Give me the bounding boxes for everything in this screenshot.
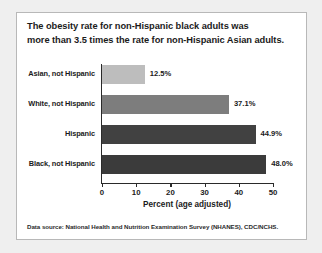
bar-category-label: Asian, not Hispanic — [17, 69, 95, 78]
bar-category-label: Hispanic — [17, 129, 95, 138]
x-axis-tick-label: 0 — [100, 188, 104, 197]
bar — [102, 95, 229, 114]
bar-value-label: 12.5% — [150, 69, 172, 78]
x-axis-tick-label: 40 — [234, 188, 243, 197]
chart-title-line-2: more than 3.5 times the rate for non-His… — [27, 34, 299, 48]
x-axis-tick-label: 20 — [166, 188, 175, 197]
x-axis-line — [101, 183, 273, 184]
x-axis-label: Percent (age adjusted) — [101, 200, 273, 209]
bar — [102, 155, 266, 174]
x-axis-tick — [273, 183, 274, 187]
x-axis-tick — [239, 183, 240, 187]
x-axis-tick-label: 30 — [200, 188, 209, 197]
bar-row: Hispanic44.9% — [17, 121, 308, 151]
chart-card: The obesity rate for non-Hispanic black … — [16, 12, 307, 240]
bar-value-label: 37.1% — [234, 99, 256, 108]
x-axis-tick — [170, 183, 171, 187]
bar-value-label: 48.0% — [271, 159, 293, 168]
bar-row: Asian, not Hispanic12.5% — [17, 61, 308, 91]
bar — [102, 125, 256, 144]
x-axis-tick — [102, 183, 103, 187]
chart-title-line-1: The obesity rate for non-Hispanic black … — [27, 20, 299, 34]
bar-chart-plot: Asian, not Hispanic12.5%White, not Hispa… — [17, 61, 308, 206]
x-axis-tick — [136, 183, 137, 187]
bar-row: White, not Hispanic37.1% — [17, 91, 308, 121]
x-axis-tick-label: 50 — [269, 188, 278, 197]
x-axis-tick — [205, 183, 206, 187]
x-axis-tick-label: 10 — [132, 188, 141, 197]
bar-category-label: Black, not Hispanic — [17, 159, 95, 168]
bar-row: Black, not Hispanic48.0% — [17, 151, 308, 181]
bar — [102, 65, 145, 84]
chart-title: The obesity rate for non-Hispanic black … — [27, 20, 299, 47]
bar-value-label: 44.9% — [261, 129, 283, 138]
data-source-note: Data source: National Health and Nutriti… — [27, 223, 278, 230]
bar-category-label: White, not Hispanic — [17, 99, 95, 108]
